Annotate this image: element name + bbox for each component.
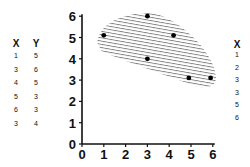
data-point [186, 76, 191, 81]
x-tick-label: 3 [144, 147, 151, 162]
y-tick-label: 5 [69, 31, 76, 46]
data-point [145, 14, 150, 19]
hatched-region [97, 13, 216, 87]
x-tick-label: 5 [187, 147, 194, 162]
y-tick-label: 1 [69, 116, 76, 131]
y-tick-label: 6 [69, 9, 76, 24]
y-tick-label: 3 [69, 73, 76, 88]
x-tick-label: 1 [100, 147, 107, 162]
scatter-chart: 01234560123456 [0, 0, 250, 167]
data-point [171, 33, 176, 38]
x-tick-label: 4 [166, 147, 174, 162]
y-tick-label: 4 [69, 52, 77, 67]
data-point [101, 33, 106, 38]
x-tick-label: 6 [209, 147, 216, 162]
data-point [208, 76, 213, 81]
x-tick-label: 2 [122, 147, 129, 162]
y-tick-label: 2 [69, 94, 76, 109]
y-tick-label: 0 [69, 137, 76, 152]
x-tick-label: 0 [78, 147, 85, 162]
data-point [145, 56, 150, 61]
